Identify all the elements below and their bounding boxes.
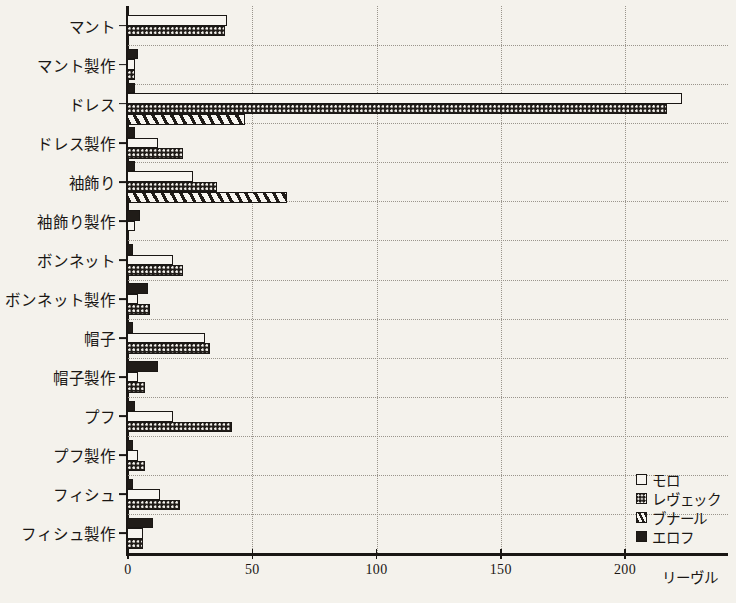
legend-label: モロ <box>652 469 680 490</box>
x-axis-tick-label: 150 <box>490 562 512 578</box>
category-label: 帽子 <box>84 327 116 349</box>
legend-swatch-icon <box>636 531 647 542</box>
category-label: プフ製作 <box>53 444 116 466</box>
y-axis-tick <box>119 415 128 417</box>
bar-レヴェック <box>128 304 150 315</box>
category-label: ボンネット製作 <box>5 288 116 310</box>
bar-エロフ <box>128 401 135 412</box>
bar-モロ <box>128 450 138 461</box>
category-label: フィシュ <box>53 483 116 505</box>
bar-モロ <box>128 411 173 422</box>
x-axis-tick-label: 200 <box>614 562 636 578</box>
category-label: ボンネット <box>37 249 116 271</box>
bar-エロフ <box>128 244 133 255</box>
y-axis-tick <box>119 181 128 183</box>
y-gridline <box>128 84 728 86</box>
legend: モロレヴェックブナールエロフ <box>636 470 721 546</box>
bar-エロフ <box>128 127 135 138</box>
legend-label: ブナール <box>652 507 707 528</box>
bar-レヴェック <box>128 500 180 511</box>
y-gridline <box>128 162 728 164</box>
y-gridline <box>128 45 728 47</box>
bar-モロ <box>128 489 160 500</box>
legend-item: レヴェック <box>636 489 721 508</box>
category-label: プフ <box>84 405 116 427</box>
horizontal-bar-chart: 050100150200 マントマント製作ドレスドレス製作袖飾り袖飾り製作ボンネ… <box>0 0 736 603</box>
bar-レヴェック <box>128 539 143 550</box>
y-axis-tick <box>119 533 128 535</box>
legend-item: エロフ <box>636 527 721 546</box>
bar-モロ <box>128 59 135 70</box>
x-axis-tick <box>624 549 626 559</box>
y-axis-tick <box>119 64 128 66</box>
bar-レヴェック <box>128 26 225 37</box>
legend-label: レヴェック <box>652 488 721 509</box>
x-axis-tick-label: 50 <box>245 562 260 578</box>
category-label: マント <box>69 15 116 37</box>
legend-item: モロ <box>636 470 721 489</box>
bar-レヴェック <box>128 422 232 433</box>
y-axis-tick <box>119 259 128 261</box>
bar-エロフ <box>128 361 158 372</box>
bar-モロ <box>128 93 682 104</box>
category-label: ドレス <box>69 93 116 115</box>
y-axis-tick <box>119 25 128 27</box>
y-gridline <box>128 319 728 321</box>
legend-swatch-icon <box>636 474 647 485</box>
y-gridline <box>128 397 728 399</box>
x-axis-tick-label: 100 <box>366 562 388 578</box>
x-axis-unit-label: リーヴル <box>662 566 718 587</box>
y-axis-tick <box>119 220 128 222</box>
bar-エロフ <box>128 283 148 294</box>
category-label: マント製作 <box>37 54 116 76</box>
bar-ブナール <box>128 114 245 125</box>
category-label: 袖飾り <box>69 171 116 193</box>
bar-エロフ <box>128 440 133 451</box>
y-axis-tick <box>119 103 128 105</box>
x-axis-tick <box>252 549 254 559</box>
bar-モロ <box>128 333 205 344</box>
y-axis-tick <box>119 142 128 144</box>
bar-レヴェック <box>128 265 183 276</box>
y-axis-tick <box>119 337 128 339</box>
bar-レヴェック <box>128 461 145 472</box>
bar-エロフ <box>128 518 153 529</box>
y-gridline <box>128 240 728 242</box>
legend-swatch-icon <box>636 493 647 504</box>
y-axis-tick <box>119 493 128 495</box>
bar-エロフ <box>128 49 138 60</box>
bar-レヴェック <box>128 148 183 159</box>
x-axis-tick <box>376 549 378 559</box>
bar-モロ <box>128 221 135 232</box>
bar-エロフ <box>128 479 133 490</box>
bar-モロ <box>128 528 143 539</box>
x-axis-tick <box>500 549 502 559</box>
bar-モロ <box>128 372 138 383</box>
bar-エロフ <box>128 161 135 172</box>
y-gridline <box>128 436 728 438</box>
category-label: フィシュ製作 <box>21 522 116 544</box>
x-axis-line <box>126 553 728 556</box>
bar-エロフ <box>128 210 140 221</box>
bar-ブナール <box>128 192 287 203</box>
bar-エロフ <box>128 83 135 94</box>
x-axis-tick-label: 0 <box>124 562 131 578</box>
bar-モロ <box>128 15 227 26</box>
y-gridline <box>128 358 728 360</box>
y-axis-tick <box>119 454 128 456</box>
bar-レヴェック <box>128 104 667 115</box>
bar-エロフ <box>128 322 133 333</box>
bar-モロ <box>128 138 158 149</box>
category-label: 帽子製作 <box>53 366 116 388</box>
bar-モロ <box>128 171 193 182</box>
y-axis-tick <box>119 298 128 300</box>
y-axis-tick <box>119 376 128 378</box>
bar-モロ <box>128 294 138 305</box>
bar-レヴェック <box>128 343 210 354</box>
bar-レヴェック <box>128 70 135 81</box>
bar-モロ <box>128 255 173 266</box>
legend-swatch-icon <box>636 512 647 523</box>
bar-レヴェック <box>128 382 145 393</box>
legend-item: ブナール <box>636 508 721 527</box>
category-label: 袖飾り製作 <box>37 210 116 232</box>
